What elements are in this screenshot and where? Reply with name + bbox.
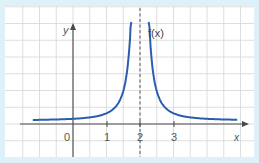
function-label: f(x): [148, 27, 164, 39]
graph-frame: y x f(x) 0 1 2 3: [0, 0, 259, 163]
tick-label-3: 3: [171, 131, 177, 143]
function-graph: y x f(x) 0 1 2 3: [0, 0, 259, 163]
x-axis-label: x: [233, 132, 240, 143]
tick-label-2: 2: [137, 131, 143, 143]
tick-label-1: 1: [104, 131, 110, 143]
tick-label-0: 0: [64, 131, 70, 143]
